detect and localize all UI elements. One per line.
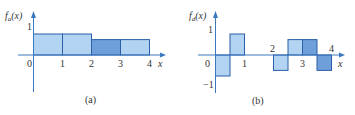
x-tick-0-a: 0 [27, 58, 32, 69]
bar [92, 40, 121, 55]
y-axis-arrow-icon [31, 11, 36, 18]
bar [216, 55, 231, 76]
y-label-b: fd(x) [189, 10, 207, 23]
x-tick-4-b: 4 [329, 43, 334, 54]
x-tick-4-a: 4 [147, 58, 152, 69]
y-axis-arrow-icon [213, 11, 218, 18]
y-label-a: fa(x) [5, 10, 23, 23]
bar [121, 40, 150, 55]
x-tick-2-a: 2 [89, 58, 94, 69]
bar [303, 40, 318, 55]
x-axis-arrow-icon [339, 53, 345, 58]
bar [230, 34, 245, 55]
x-tick-3-b: 3 [300, 58, 305, 69]
panel-b: fd(x) 1 −1 0 1 2 3 4 x (b) [189, 10, 345, 107]
bar [288, 40, 303, 55]
y-tick-1-b: 1 [208, 24, 213, 35]
y-tick-neg1-b: −1 [203, 79, 214, 90]
figure: fa(x) 1 0 1 2 3 4 x (a) fd(x) 1 −1 0 1 2… [0, 0, 355, 115]
bar [317, 55, 332, 70]
x-tick-1-a: 1 [60, 58, 65, 69]
bar [34, 34, 63, 55]
x-label-b: x [337, 58, 343, 69]
x-tick-1-b: 1 [242, 58, 247, 69]
bar [274, 55, 289, 70]
x-axis-arrow-icon [160, 53, 166, 58]
x-tick-3-a: 3 [118, 58, 123, 69]
x-label-a: x [157, 58, 163, 69]
bar [63, 34, 92, 55]
caption-b: (b) [252, 95, 264, 107]
y-tick-1-a: 1 [27, 21, 32, 32]
x-tick-2-b: 2 [270, 43, 275, 54]
panel-a: fa(x) 1 0 1 2 3 4 x (a) [5, 10, 166, 106]
x-tick-0-b: 0 [205, 58, 210, 69]
caption-a: (a) [85, 94, 96, 106]
bars-a [34, 34, 150, 55]
